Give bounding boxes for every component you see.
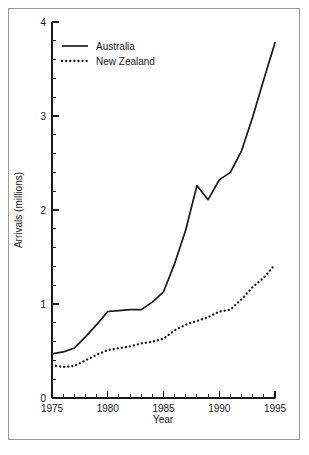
y-axis-title: Arrivals (millions) xyxy=(13,172,24,248)
legend-label-new-zealand: New Zealand xyxy=(96,56,155,67)
chart-legend: AustraliaNew Zealand xyxy=(62,41,155,67)
x-axis-title: Year xyxy=(153,414,174,425)
tick-labels: 1975198019851990199501234 xyxy=(40,17,286,414)
series-line-new-zealand xyxy=(52,265,275,367)
y-tick-label: 0 xyxy=(40,393,46,404)
x-tick-label: 1980 xyxy=(97,403,120,414)
y-tick-label: 1 xyxy=(40,299,46,310)
y-tick-label: 3 xyxy=(40,111,46,122)
x-tick-label: 1985 xyxy=(152,403,175,414)
x-tick-label: 1995 xyxy=(264,403,287,414)
series-line-australia xyxy=(52,43,275,354)
y-tick-label: 2 xyxy=(40,205,46,216)
x-tick-label: 1975 xyxy=(41,403,64,414)
y-tick-label: 4 xyxy=(40,17,46,28)
data-series xyxy=(52,43,275,367)
line-chart-canvas: 1975198019851990199501234 AustraliaNew Z… xyxy=(0,0,309,455)
legend-label-australia: Australia xyxy=(96,41,135,52)
chart-figure: 1975198019851990199501234 AustraliaNew Z… xyxy=(0,0,309,455)
x-tick-label: 1990 xyxy=(208,403,231,414)
axes xyxy=(52,22,275,398)
